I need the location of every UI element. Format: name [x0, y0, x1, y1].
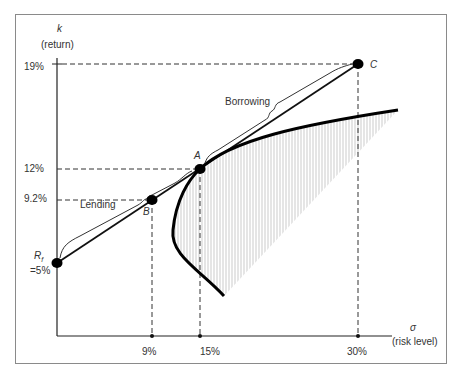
x-axis-symbol: σ [410, 322, 416, 334]
borrowing-annotation: Borrowing [225, 96, 270, 108]
x-tick-30: 30% [347, 346, 367, 358]
x-axis-label: (risk level) [392, 336, 438, 348]
point-c [353, 59, 364, 69]
y-tick-9-2: 9.2% [24, 193, 47, 205]
rf-label: Rf [34, 250, 43, 266]
x-tick-9: 9% [142, 346, 156, 358]
point-b [147, 195, 158, 205]
y-axis-symbol: k [57, 23, 62, 35]
point-b-label: B [143, 206, 150, 218]
point-c-label: C [370, 59, 377, 71]
point-rf [52, 258, 63, 268]
borrowing-brace [205, 64, 352, 163]
lending-annotation: Lending [80, 199, 116, 211]
rf-value: =5% [30, 265, 50, 277]
y-axis-label: (return) [41, 39, 74, 51]
chart-canvas [0, 0, 459, 377]
x-tick-15: 15% [200, 346, 220, 358]
point-a [195, 164, 206, 174]
y-tick-19: 19% [24, 61, 44, 73]
point-a-label: A [194, 150, 201, 162]
lending-brace [60, 171, 192, 258]
y-tick-12: 12% [24, 163, 44, 175]
